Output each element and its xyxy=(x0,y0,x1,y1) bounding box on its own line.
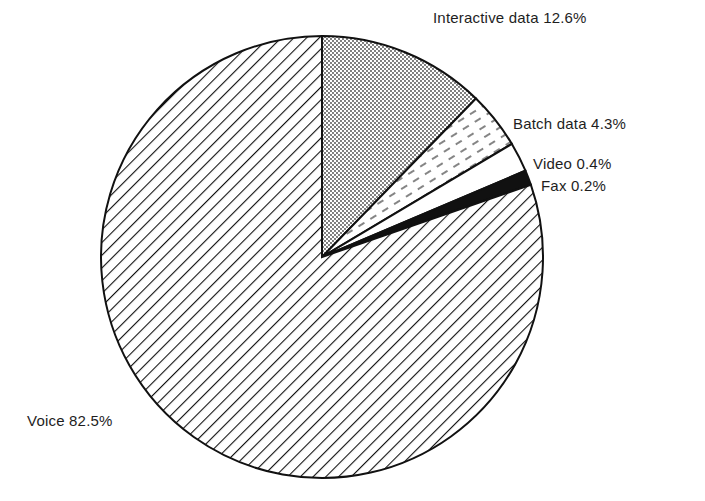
label-fax: Fax 0.2% xyxy=(541,177,606,194)
label-interactive-data: Interactive data 12.6% xyxy=(433,9,587,26)
pie-slices xyxy=(101,36,543,478)
label-video: Video 0.4% xyxy=(533,155,611,172)
label-voice: Voice 82.5% xyxy=(27,412,113,429)
label-batch-data: Batch data 4.3% xyxy=(513,115,626,132)
